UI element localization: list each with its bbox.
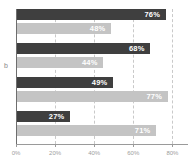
bar-row: 71% <box>17 125 188 136</box>
x-axis-tick-label: 0% <box>4 150 28 157</box>
bar-group: 27%71% <box>17 111 188 136</box>
x-axis-line <box>16 144 188 145</box>
bar-value-label: 44% <box>82 58 98 67</box>
y-axis-title: b <box>0 62 12 70</box>
bar-row: 68% <box>17 43 188 54</box>
bar-group: 49%77% <box>17 77 188 102</box>
bar-row: 48% <box>17 23 188 34</box>
bar-group: 76%48% <box>17 9 188 34</box>
plot-area: 76%48%68%44%49%77%27%71% <box>16 9 188 144</box>
bar[interactable] <box>17 9 166 20</box>
x-axis-tick-label: 80% <box>160 150 184 157</box>
bar-value-label: 48% <box>90 24 106 33</box>
bar-value-label: 71% <box>135 126 151 135</box>
bar-group: 68%44% <box>17 43 188 68</box>
x-axis-tick-label: 40% <box>82 150 106 157</box>
horizontal-bar-chart: b 76%48%68%44%49%77%27%71% 0%20%40%60%80… <box>0 0 193 165</box>
x-axis-tick <box>133 144 134 147</box>
x-axis-tick <box>16 144 17 147</box>
bar-row: 77% <box>17 91 188 102</box>
x-axis-tick <box>94 144 95 147</box>
bar-value-label: 68% <box>129 44 145 53</box>
bar-row: 49% <box>17 77 188 88</box>
bar-value-label: 49% <box>92 78 108 87</box>
bar-row: 76% <box>17 9 188 20</box>
bar-value-label: 77% <box>147 92 163 101</box>
x-axis-tick-label: 20% <box>43 150 67 157</box>
x-axis-tick <box>55 144 56 147</box>
bar-value-label: 27% <box>49 112 65 121</box>
x-axis-tick <box>172 144 173 147</box>
bar-row: 44% <box>17 57 188 68</box>
bar[interactable] <box>17 91 168 102</box>
bar-row: 27% <box>17 111 188 122</box>
bar-value-label: 76% <box>145 10 161 19</box>
x-axis-tick-label: 60% <box>121 150 145 157</box>
